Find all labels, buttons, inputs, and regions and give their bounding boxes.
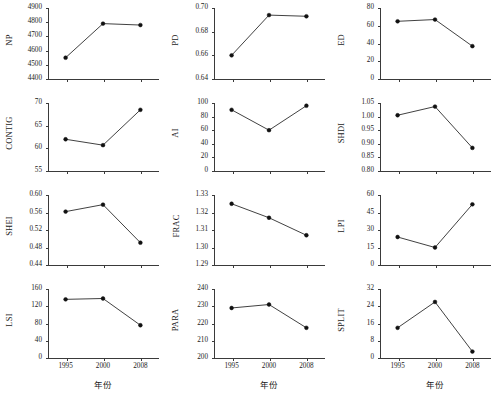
chart-panel-pd: PD0.640.660.680.70 <box>166 0 332 95</box>
x-axis-tick-label: 1995 <box>390 363 404 370</box>
data-point-marker <box>101 203 105 207</box>
data-point-marker <box>267 13 271 17</box>
data-point-marker <box>230 306 234 310</box>
data-series-np <box>0 0 166 95</box>
chart-panel-ed: ED020406080 <box>332 0 498 95</box>
data-point-marker <box>305 326 309 330</box>
data-point-marker <box>471 350 475 354</box>
series-line <box>232 305 307 328</box>
data-point-marker <box>433 105 437 109</box>
data-point-marker <box>139 108 143 112</box>
chart-panel-frac: FRAC1.291.301.311.321.33 <box>166 187 332 281</box>
chart-panel-np: NP440045004600470048004900 <box>0 0 166 95</box>
data-series-lsi <box>0 281 166 400</box>
data-point-marker <box>471 146 475 150</box>
x-axis-tick-labels: 199520002008 <box>0 363 166 375</box>
x-axis-tick-label: 2000 <box>428 363 442 370</box>
multi-panel-line-chart-figure: NP440045004600470048004900PD0.640.660.68… <box>0 0 498 400</box>
chart-panel-lpi: LPI015304560 <box>332 187 498 281</box>
data-point-marker <box>230 108 234 112</box>
series-line <box>398 20 473 47</box>
data-point-marker <box>267 303 271 307</box>
data-point-marker <box>267 128 271 132</box>
chart-panel-lsi: LSI04080120160199520002008年份 <box>0 281 166 400</box>
x-axis-title: 年份 <box>260 378 278 390</box>
series-line <box>398 204 473 247</box>
chart-panel-para: PARA200210220230240199520002008年份 <box>166 281 332 400</box>
data-point-marker <box>471 44 475 48</box>
data-point-marker <box>305 14 309 18</box>
data-point-marker <box>396 113 400 117</box>
chart-panel-ai: AI020406080100 <box>166 95 332 187</box>
series-line <box>398 107 473 148</box>
data-point-marker <box>305 104 309 108</box>
data-point-marker <box>139 241 143 245</box>
chart-panel-shdi: SHDI0.800.850.900.951.001.05 <box>332 95 498 187</box>
x-axis-tick-labels: 199520002008 <box>166 363 332 375</box>
data-point-marker <box>230 202 234 206</box>
series-line <box>66 24 141 58</box>
data-series-lpi <box>332 187 498 281</box>
x-axis-tick-label: 2008 <box>299 363 313 370</box>
chart-panel-shei: SHEI0.440.480.520.560.60 <box>0 187 166 281</box>
data-point-marker <box>396 326 400 330</box>
data-point-marker <box>433 18 437 22</box>
data-point-marker <box>139 323 143 327</box>
data-point-marker <box>101 22 105 26</box>
x-axis-tick-label: 2000 <box>262 363 276 370</box>
data-series-ai <box>166 95 332 187</box>
chart-panel-contig: CONTIG55606570 <box>0 95 166 187</box>
data-series-ed <box>332 0 498 95</box>
data-point-marker <box>396 19 400 23</box>
chart-panel-split: SPLIT08162432199520002008年份 <box>332 281 498 400</box>
x-axis-tick-label: 2000 <box>96 363 110 370</box>
data-point-marker <box>64 210 68 214</box>
data-series-frac <box>166 187 332 281</box>
data-point-marker <box>471 202 475 206</box>
data-point-marker <box>139 23 143 27</box>
data-point-marker <box>396 235 400 239</box>
x-axis-tick-label: 2008 <box>465 363 479 370</box>
data-series-para <box>166 281 332 400</box>
x-axis-title: 年份 <box>94 378 112 390</box>
x-axis-title: 年份 <box>426 378 444 390</box>
data-point-marker <box>433 300 437 304</box>
data-series-shdi <box>332 95 498 187</box>
series-line <box>66 205 141 243</box>
data-series-pd <box>166 0 332 95</box>
data-point-marker <box>64 56 68 60</box>
series-line <box>232 15 307 55</box>
x-axis-tick-label: 1995 <box>58 363 72 370</box>
series-line <box>66 110 141 145</box>
data-point-marker <box>305 233 309 237</box>
series-line <box>66 298 141 325</box>
x-axis-tick-label: 1995 <box>224 363 238 370</box>
x-axis-tick-label: 2008 <box>133 363 147 370</box>
x-axis-tick-labels: 199520002008 <box>332 363 498 375</box>
series-line <box>398 302 473 352</box>
data-series-shei <box>0 187 166 281</box>
data-point-marker <box>101 297 105 301</box>
data-series-contig <box>0 95 166 187</box>
data-series-split <box>332 281 498 400</box>
data-point-marker <box>230 53 234 57</box>
data-point-marker <box>433 246 437 250</box>
data-point-marker <box>64 297 68 301</box>
data-point-marker <box>101 143 105 147</box>
data-point-marker <box>267 216 271 220</box>
data-point-marker <box>64 137 68 141</box>
series-line <box>232 106 307 130</box>
